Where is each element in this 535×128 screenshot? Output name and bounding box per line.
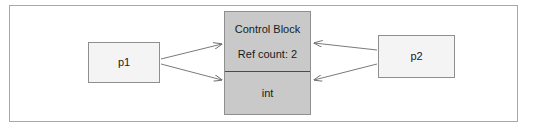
node-p1: p1 <box>88 42 160 83</box>
node-p1-label: p1 <box>118 56 130 68</box>
arrow-p2-to-managed-int <box>314 64 377 80</box>
diagram-canvas: p1 Control Block Ref count: 2 int p2 <box>0 0 535 128</box>
arrow-p1-to-managed-int <box>161 64 222 80</box>
managed-object-type-label: int <box>262 87 274 99</box>
node-control-block: Control Block Ref count: 2 int <box>224 11 311 115</box>
control-block-ref-count: Ref count: 2 <box>238 48 297 60</box>
control-block-upper-section: Control Block Ref count: 2 <box>225 12 310 72</box>
control-block-title: Control Block <box>235 23 300 35</box>
node-p2: p2 <box>378 35 455 78</box>
arrow-p2-to-control-block <box>314 43 377 50</box>
arrow-p1-to-control-block <box>161 44 222 59</box>
node-p2-label: p2 <box>410 50 422 62</box>
control-block-lower-section: int <box>225 72 310 114</box>
